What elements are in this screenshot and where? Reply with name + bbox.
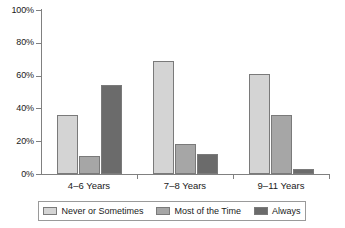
- bar[interactable]: [197, 154, 218, 174]
- legend-item-never-or-sometimes[interactable]: Never or Sometimes: [43, 206, 143, 216]
- x-axis-category-label: 9–11 Years: [233, 180, 329, 191]
- bar[interactable]: [79, 156, 100, 174]
- grouped-bar-chart: 0%20%40%60%80%100% 4–6 Years7–8 Years9–1…: [0, 0, 345, 228]
- chart-legend: Never or Sometimes Most of the Time Alwa…: [38, 201, 306, 221]
- y-axis-tick-label: 40%: [0, 104, 34, 113]
- bar[interactable]: [57, 115, 78, 174]
- bar[interactable]: [101, 85, 122, 174]
- y-axis-tick-label: 0%: [0, 170, 34, 179]
- bar[interactable]: [271, 115, 292, 174]
- x-axis-tick: [137, 174, 138, 179]
- legend-label: Never or Sometimes: [61, 206, 143, 216]
- plot-area: [41, 10, 329, 174]
- y-axis-tick-label: 80%: [0, 38, 34, 47]
- legend-swatch-icon: [156, 207, 170, 215]
- bar[interactable]: [153, 61, 174, 174]
- y-axis-tick-label: 60%: [0, 71, 34, 80]
- legend-label: Most of the Time: [174, 206, 241, 216]
- legend-item-most-of-the-time[interactable]: Most of the Time: [156, 206, 241, 216]
- chart-title: [0, 0, 345, 4]
- bar[interactable]: [249, 74, 270, 174]
- legend-item-always[interactable]: Always: [254, 206, 301, 216]
- bar[interactable]: [293, 169, 314, 174]
- x-axis-category-label: 7–8 Years: [137, 180, 233, 191]
- x-axis-tick: [233, 174, 234, 179]
- y-axis-tick-label: 100%: [0, 6, 34, 15]
- legend-label: Always: [272, 206, 301, 216]
- x-axis-category-label: 4–6 Years: [41, 180, 137, 191]
- x-axis-tick: [329, 174, 330, 179]
- x-axis-line: [41, 174, 329, 175]
- bar[interactable]: [175, 144, 196, 174]
- legend-swatch-icon: [43, 207, 57, 215]
- y-axis-tick: [36, 174, 41, 175]
- legend-swatch-icon: [254, 207, 268, 215]
- y-axis-tick-label: 20%: [0, 137, 34, 146]
